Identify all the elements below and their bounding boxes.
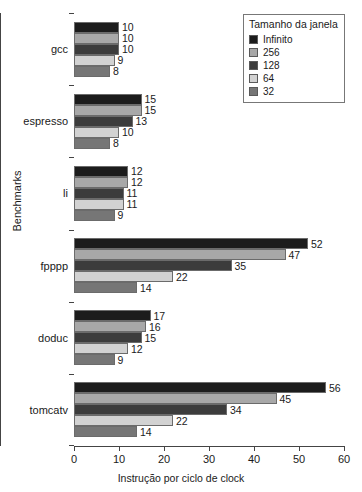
- bar[interactable]: [74, 282, 137, 293]
- bar-row: 12: [74, 343, 344, 354]
- bar-row: 14: [74, 282, 344, 293]
- bar-value-label: 12: [131, 343, 143, 355]
- bar-value-label: 14: [140, 282, 152, 294]
- bar[interactable]: [74, 22, 119, 33]
- legend-item-label: Infinito: [263, 34, 292, 45]
- y-axis-tick: [69, 157, 74, 158]
- bar[interactable]: [74, 210, 115, 221]
- bar[interactable]: [74, 354, 115, 365]
- bar[interactable]: [74, 310, 151, 321]
- bar[interactable]: [74, 166, 128, 177]
- legend-items: Infinito2561286432: [249, 33, 338, 97]
- legend-item[interactable]: 128: [249, 59, 338, 71]
- bar-row: 56: [74, 382, 344, 393]
- bar[interactable]: [74, 332, 142, 343]
- bar-value-label: 22: [176, 415, 188, 427]
- x-axis-tick-label: 30: [203, 453, 215, 465]
- bar-value-label: 9: [118, 209, 124, 221]
- bar-group: doduc171615129: [74, 302, 344, 374]
- legend-swatch-icon: [249, 48, 258, 57]
- bar[interactable]: [74, 415, 173, 426]
- y-axis-category-label: tomcatv: [29, 404, 68, 416]
- bar[interactable]: [74, 199, 124, 210]
- x-axis-tick: [344, 446, 345, 451]
- bar-value-label: 9: [118, 354, 124, 366]
- bar-value-label: 34: [230, 404, 242, 416]
- legend-item[interactable]: 256: [249, 46, 338, 58]
- x-axis-title: Instrução por ciclo de clock: [0, 472, 362, 484]
- bar-group: tomcatv5645342214: [74, 374, 344, 446]
- y-axis-category-label: gcc: [51, 43, 68, 55]
- legend: Tamanho da janela Infinito2561286432: [243, 14, 345, 103]
- bar[interactable]: [74, 382, 326, 393]
- bar-row: 14: [74, 426, 344, 437]
- bar-row: 22: [74, 271, 344, 282]
- bar[interactable]: [74, 238, 308, 249]
- bar[interactable]: [74, 260, 232, 271]
- bar[interactable]: [74, 177, 128, 188]
- legend-swatch-icon: [249, 74, 258, 83]
- bar[interactable]: [74, 116, 133, 127]
- y-axis-tick: [69, 374, 74, 375]
- bar[interactable]: [74, 66, 110, 77]
- bar[interactable]: [74, 127, 119, 138]
- legend-item[interactable]: Infinito: [249, 33, 338, 45]
- bar[interactable]: [74, 404, 227, 415]
- bar-row: 13: [74, 116, 344, 127]
- legend-item[interactable]: 32: [249, 85, 338, 97]
- chart-container: Benchmarks gcc10101098espresso151513108l…: [0, 0, 362, 492]
- bar-value-label: 35: [235, 260, 247, 272]
- bar[interactable]: [74, 94, 142, 105]
- legend-item-label: 128: [263, 60, 280, 71]
- bar[interactable]: [74, 249, 286, 260]
- y-axis-title: Benchmarks: [11, 121, 23, 281]
- bar-value-label: 11: [127, 198, 138, 210]
- bar-group: fpppp5247352214: [74, 230, 344, 302]
- x-axis-tick-label: 10: [113, 453, 125, 465]
- legend-title: Tamanho da janela: [249, 18, 338, 30]
- legend-item-label: 64: [263, 73, 274, 84]
- bar-row: 11: [74, 188, 344, 199]
- y-axis-tick: [69, 85, 74, 86]
- x-axis-tick: [299, 446, 300, 451]
- bar[interactable]: [74, 393, 277, 404]
- bar[interactable]: [74, 44, 119, 55]
- bar-row: 22: [74, 415, 344, 426]
- legend-item[interactable]: 64: [249, 72, 338, 84]
- y-axis-category-label: doduc: [38, 332, 68, 344]
- bar[interactable]: [74, 188, 124, 199]
- bar-row: 12: [74, 177, 344, 188]
- bar[interactable]: [74, 55, 115, 66]
- bar-value-label: 52: [311, 238, 323, 250]
- bar[interactable]: [74, 33, 119, 44]
- bar-row: 16: [74, 321, 344, 332]
- y-axis-tick: [69, 13, 74, 14]
- bar-value-label: 22: [176, 271, 188, 283]
- bar-value-label: 10: [122, 43, 134, 55]
- legend-swatch-icon: [249, 87, 258, 96]
- bar-row: 15: [74, 105, 344, 116]
- bar-value-label: 47: [289, 249, 301, 261]
- bar[interactable]: [74, 271, 173, 282]
- bar-group: li121211119: [74, 157, 344, 229]
- legend-item-label: 32: [263, 86, 274, 97]
- bar[interactable]: [74, 426, 137, 437]
- bar-row: 17: [74, 310, 344, 321]
- y-axis-category-label: espresso: [23, 115, 68, 127]
- bar-value-label: 8: [113, 137, 119, 149]
- bar-row: 12: [74, 166, 344, 177]
- bar-row: 8: [74, 138, 344, 149]
- bar[interactable]: [74, 105, 142, 116]
- x-axis-tick-label: 40: [248, 453, 260, 465]
- bar-value-label: 56: [329, 382, 341, 394]
- y-axis-category-label: li: [63, 187, 68, 199]
- bar-row: 15: [74, 332, 344, 343]
- bar[interactable]: [74, 138, 110, 149]
- bar[interactable]: [74, 321, 146, 332]
- bar-value-label: 13: [136, 115, 148, 127]
- bar-row: 45: [74, 393, 344, 404]
- x-axis-tick-label: 50: [293, 453, 305, 465]
- y-axis-tick: [69, 230, 74, 231]
- bar[interactable]: [74, 343, 128, 354]
- bar-row: 9: [74, 210, 344, 221]
